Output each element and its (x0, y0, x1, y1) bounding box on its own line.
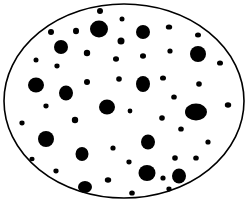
dot (128, 109, 133, 114)
dot (38, 131, 54, 147)
dot (113, 56, 119, 62)
dot (195, 33, 201, 38)
dot (29, 157, 34, 161)
dot (166, 24, 172, 29)
dot (136, 25, 150, 39)
dot (126, 160, 131, 165)
dot (118, 38, 125, 45)
dot (53, 169, 58, 174)
dot (84, 50, 90, 56)
dot (76, 147, 89, 161)
dot (171, 94, 177, 99)
dot (19, 121, 24, 126)
dot (78, 181, 92, 193)
dot (172, 169, 186, 184)
dot (72, 117, 78, 123)
spotted-circle-illustration (0, 0, 249, 201)
dot (48, 29, 54, 35)
dot (196, 81, 202, 87)
background (0, 0, 249, 201)
dot (120, 17, 125, 22)
dot (167, 48, 172, 53)
dot (73, 28, 79, 34)
dot (116, 76, 122, 82)
dot (84, 79, 90, 85)
dot (178, 126, 184, 131)
dot (54, 64, 59, 69)
dot (141, 135, 155, 150)
dot (166, 187, 171, 192)
dot (90, 21, 108, 38)
dot (34, 58, 39, 63)
dot (185, 104, 207, 121)
dot (172, 155, 178, 161)
dot (110, 145, 115, 150)
dot (225, 102, 231, 108)
dot (160, 75, 166, 80)
dot (54, 40, 68, 54)
dot (205, 139, 210, 144)
dot (59, 86, 73, 101)
dot (190, 46, 206, 62)
dot (140, 53, 146, 59)
dot (129, 190, 135, 195)
dot (139, 165, 156, 181)
dot (99, 100, 115, 115)
dot (159, 115, 165, 121)
dot (97, 8, 103, 14)
dot (105, 177, 111, 183)
dot (28, 78, 44, 93)
dot (160, 175, 165, 180)
dot (217, 60, 223, 65)
dot (136, 76, 150, 92)
dot (43, 104, 48, 109)
dot (193, 155, 199, 160)
